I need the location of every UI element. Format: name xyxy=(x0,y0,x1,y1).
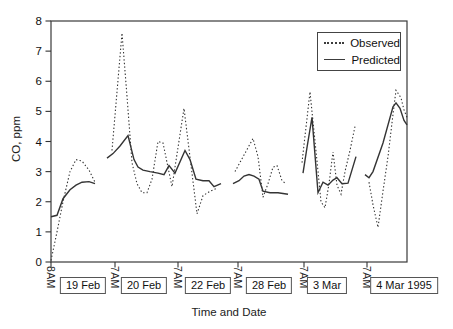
date-box: 3 Mar xyxy=(307,277,347,294)
date-box: 20 Feb xyxy=(121,277,167,294)
date-box: 4 Mar 1995 xyxy=(370,277,438,294)
co-time-series-figure: 012345678 CO, ppm Time and Date Observed… xyxy=(0,0,453,329)
date-box: 28 Feb xyxy=(246,277,292,294)
date-box: 22 Feb xyxy=(185,277,231,294)
date-box-layer: 19 Feb20 Feb22 Feb28 Feb3 Mar4 Mar 1995 xyxy=(0,0,453,329)
date-box: 19 Feb xyxy=(60,277,106,294)
